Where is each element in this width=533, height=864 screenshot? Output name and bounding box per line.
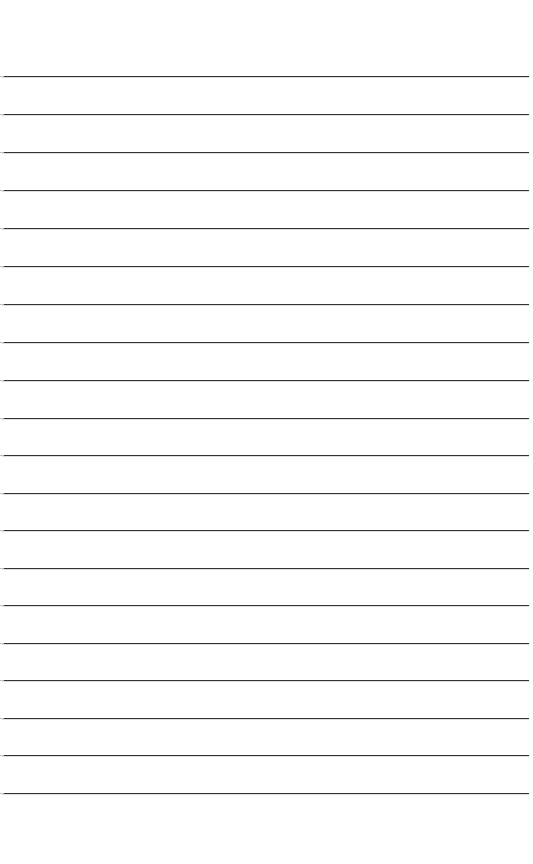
ruled-line xyxy=(2,455,529,456)
ruled-line xyxy=(2,114,529,115)
ruled-line xyxy=(2,380,529,381)
ruled-line xyxy=(2,568,529,569)
ruled-line xyxy=(2,266,529,267)
ruled-line xyxy=(2,493,529,494)
ruled-line xyxy=(2,228,529,229)
ruled-line xyxy=(2,605,529,606)
ruled-line-area xyxy=(0,0,533,864)
ruled-line xyxy=(2,304,529,305)
ruled-line xyxy=(2,152,529,153)
ruled-line xyxy=(2,718,529,719)
ruled-line xyxy=(2,643,529,644)
ruled-line xyxy=(2,76,529,77)
ruled-line xyxy=(2,680,529,681)
ruled-line xyxy=(2,418,529,419)
bottom-margin xyxy=(0,793,533,864)
ruled-line xyxy=(2,530,529,531)
ruled-line xyxy=(2,342,529,343)
scanned-page xyxy=(0,0,533,864)
ruled-line xyxy=(2,190,529,191)
ruled-line xyxy=(2,755,529,756)
